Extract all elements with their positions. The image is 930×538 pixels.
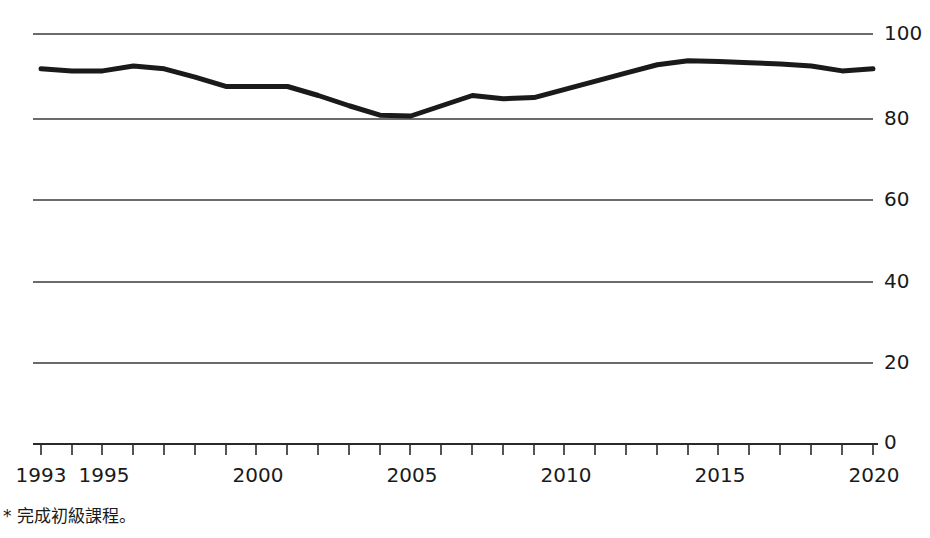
data-series-line <box>41 61 873 116</box>
y-tick-label-80: 80 <box>884 108 909 128</box>
x-tick-label-2015: 2015 <box>695 464 746 486</box>
x-tick-label-1993: 1993 <box>16 464 67 486</box>
x-tick-label-2000: 2000 <box>233 464 284 486</box>
y-tick-label-100: 100 <box>884 23 922 43</box>
y-tick-label-40: 40 <box>884 271 909 291</box>
x-tick-label-2010: 2010 <box>541 464 592 486</box>
y-tick-label-60: 60 <box>884 189 909 209</box>
y-tick-label-0: 0 <box>884 432 897 452</box>
chart-footnote: * 完成初級課程。 <box>3 505 136 527</box>
x-tick-label-2005: 2005 <box>387 464 438 486</box>
x-axis-ticks <box>41 444 873 455</box>
gridlines <box>33 34 873 363</box>
chart-plot-area <box>0 0 930 538</box>
y-tick-label-20: 20 <box>884 352 909 372</box>
x-tick-label-2020: 2020 <box>849 464 900 486</box>
chart-container: 100 80 60 40 20 0 1993 1995 2000 2005 20… <box>0 0 930 538</box>
x-tick-label-1995: 1995 <box>79 464 130 486</box>
